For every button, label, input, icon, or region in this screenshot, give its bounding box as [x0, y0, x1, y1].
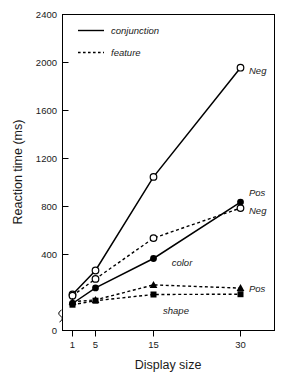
- point-feature-shape-pos-1: [70, 302, 76, 308]
- annotation-color: color: [172, 257, 193, 268]
- point-conjunction-neg-15: [150, 174, 157, 181]
- annotation-feature-neg: Neg: [249, 205, 267, 216]
- point-conjunction-pos-30: [237, 199, 244, 206]
- legend-label-conjunction: conjunction: [111, 25, 159, 36]
- point-conjunction-neg-30: [237, 64, 244, 71]
- y-tick-label-1200: 1200: [36, 153, 57, 164]
- point-feature-shape-pos-5: [93, 298, 99, 304]
- legend-label-feature: feature: [111, 47, 141, 58]
- y-tick-label-0: 0: [52, 325, 57, 336]
- point-conjunction-pos-15: [150, 255, 157, 262]
- annotation-conjunction-neg: Neg: [249, 65, 267, 76]
- x-axis-title-text: Display size: [135, 358, 202, 372]
- x-tick-label-15: 15: [148, 339, 159, 350]
- y-tick-label-400: 400: [41, 249, 57, 260]
- point-feature-neg-5: [92, 276, 99, 283]
- point-feature-neg-30: [237, 205, 244, 212]
- point-feature-shape-pos-30: [238, 291, 244, 297]
- point-conjunction-neg-5: [92, 267, 99, 274]
- point-feature-neg-15: [150, 235, 157, 242]
- chart-figure: 2400 2000 1600 1200 800 400 0 Reaction t…: [0, 0, 300, 377]
- x-axis-title: Display size: [135, 358, 202, 372]
- y-axis-title: Reaction time (ms): [11, 120, 25, 225]
- annotation-shape: shape: [163, 305, 189, 316]
- x-tick-label-5: 5: [93, 339, 98, 350]
- point-feature-shape-pos-15: [151, 292, 157, 298]
- x-tick-label-30: 30: [235, 339, 246, 350]
- y-tick-label-2000: 2000: [36, 57, 57, 68]
- reaction-time-line-chart: 2400 2000 1600 1200 800 400 0 Reaction t…: [0, 0, 300, 377]
- annotation-conjunction-pos: Pos: [249, 187, 266, 198]
- y-tick-label-800: 800: [41, 201, 57, 212]
- y-tick-label-2400: 2400: [36, 9, 57, 20]
- y-axis-title-text: Reaction time (ms): [11, 120, 25, 225]
- point-conjunction-pos-5: [92, 285, 99, 292]
- x-tick-label-1: 1: [70, 339, 75, 350]
- y-tick-label-1600: 1600: [36, 105, 57, 116]
- annotation-feature-color-pos: Pos: [249, 283, 266, 294]
